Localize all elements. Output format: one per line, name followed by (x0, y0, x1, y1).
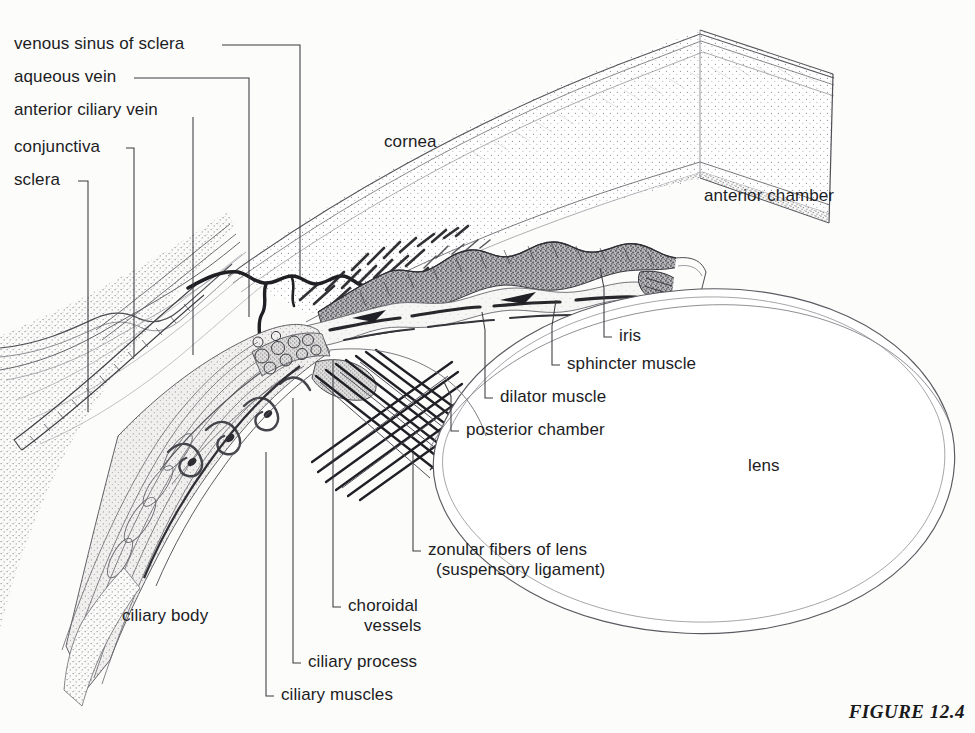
figure-caption: FIGURE 12.4 (849, 701, 965, 723)
label-vessels: vessels (364, 616, 421, 636)
lens-capsule-outer (433, 289, 954, 634)
label-suspensory-ligament: (suspensory ligament) (436, 560, 605, 580)
label-ciliary-body: ciliary body (122, 606, 208, 626)
label-conjunctiva: conjunctiva (14, 137, 100, 157)
label-anterior-chamber: anterior chamber (704, 186, 834, 206)
label-cornea: cornea (384, 132, 437, 152)
label-ciliary-muscles: ciliary muscles (281, 685, 393, 705)
label-posterior-chamber: posterior chamber (466, 420, 605, 440)
label-sphincter-muscle: sphincter muscle (567, 354, 696, 374)
label-ciliary-process: ciliary process (308, 652, 417, 672)
label-venous-sinus-of-sclera: venous sinus of sclera (14, 34, 184, 54)
leader-ciliary-process (293, 398, 301, 663)
label-dilator-muscle: dilator muscle (500, 387, 606, 407)
label-choroidal: choroidal (348, 596, 418, 616)
label-sclera: sclera (14, 170, 60, 190)
label-lens: lens (748, 456, 780, 476)
label-zonular-fibers-of-lens: zonular fibers of lens (428, 540, 587, 560)
lens-structure (430, 289, 955, 634)
label-iris: iris (619, 326, 641, 346)
label-aqueous-vein: aqueous vein (14, 67, 116, 87)
label-anterior-ciliary-vein: anterior ciliary vein (14, 100, 158, 120)
leader-ciliary-muscles (266, 452, 274, 696)
figure-page: venous sinus of sclera aqueous vein ante… (0, 0, 975, 733)
